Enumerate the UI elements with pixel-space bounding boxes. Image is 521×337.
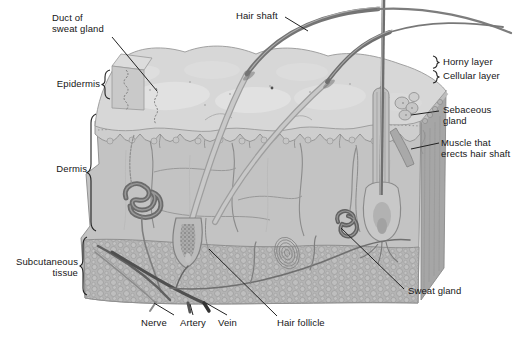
- horny-layer-brace: [433, 56, 440, 68]
- label-vein: Vein: [218, 317, 237, 328]
- skin-anatomy-figure: Duct of sweat gland Hair shaft Horny lay…: [0, 0, 521, 337]
- leader-nerve: [154, 303, 174, 315]
- label-epidermis: Epidermis: [40, 78, 100, 89]
- label-hair-shaft: Hair shaft: [236, 10, 278, 21]
- label-horny-layer: Horny layer: [443, 56, 493, 67]
- label-muscle-that-erects-hair-shaft: Muscle that erects hair shaft: [441, 137, 510, 160]
- label-subcutaneous-tissue: Subcutaneous tissue: [0, 256, 78, 279]
- label-cellular-layer: Cellular layer: [443, 70, 500, 81]
- label-artery: Artery: [180, 317, 206, 328]
- label-sebaceous-gland: Sebaceous gland: [443, 104, 491, 127]
- label-hair-follicle: Hair follicle: [277, 317, 325, 328]
- label-duct-of-sweat-gland: Duct of sweat gland: [52, 12, 104, 35]
- subcutaneous-layer: [84, 239, 419, 304]
- label-nerve: Nerve: [141, 317, 167, 328]
- label-dermis: Dermis: [40, 163, 87, 174]
- label-sweat-gland: Sweat gland: [408, 285, 461, 296]
- skin-mole-dot: [271, 87, 274, 90]
